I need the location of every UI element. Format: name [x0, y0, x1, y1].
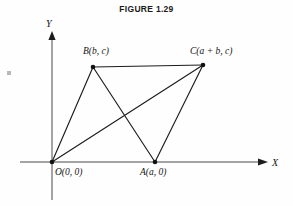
scan-speck	[7, 71, 11, 75]
vertex-label-C: C(a + b, c)	[190, 46, 232, 57]
edge-side-AC	[155, 65, 203, 162]
edge-side-BC	[93, 65, 203, 67]
parallelogram-diagonals	[52, 65, 203, 162]
vertex-label-B: B(b, c)	[83, 46, 109, 57]
arrow-right-icon	[258, 158, 268, 165]
edge-side-OB	[52, 67, 93, 162]
vertex-dot-B	[91, 65, 96, 70]
vertex-label-O: O(0, 0)	[55, 167, 82, 178]
vertex-dot-O	[50, 160, 55, 165]
x-axis-label: X	[271, 157, 279, 168]
coordinate-diagram: X Y O(0, 0) A(a, 0) B(b, c) C(a + b, c)	[0, 0, 293, 206]
vertex-label-A: A(a, 0)	[139, 167, 166, 178]
vertex-dot-C	[201, 63, 206, 68]
vertex-dot-A	[153, 160, 158, 165]
y-axis-label: Y	[46, 18, 53, 29]
edge-diagonal-OC	[52, 65, 203, 162]
arrow-up-icon	[48, 31, 55, 40]
figure-container: FIGURE 1.29 X Y	[0, 0, 293, 206]
edge-diagonal-BA	[93, 67, 155, 162]
